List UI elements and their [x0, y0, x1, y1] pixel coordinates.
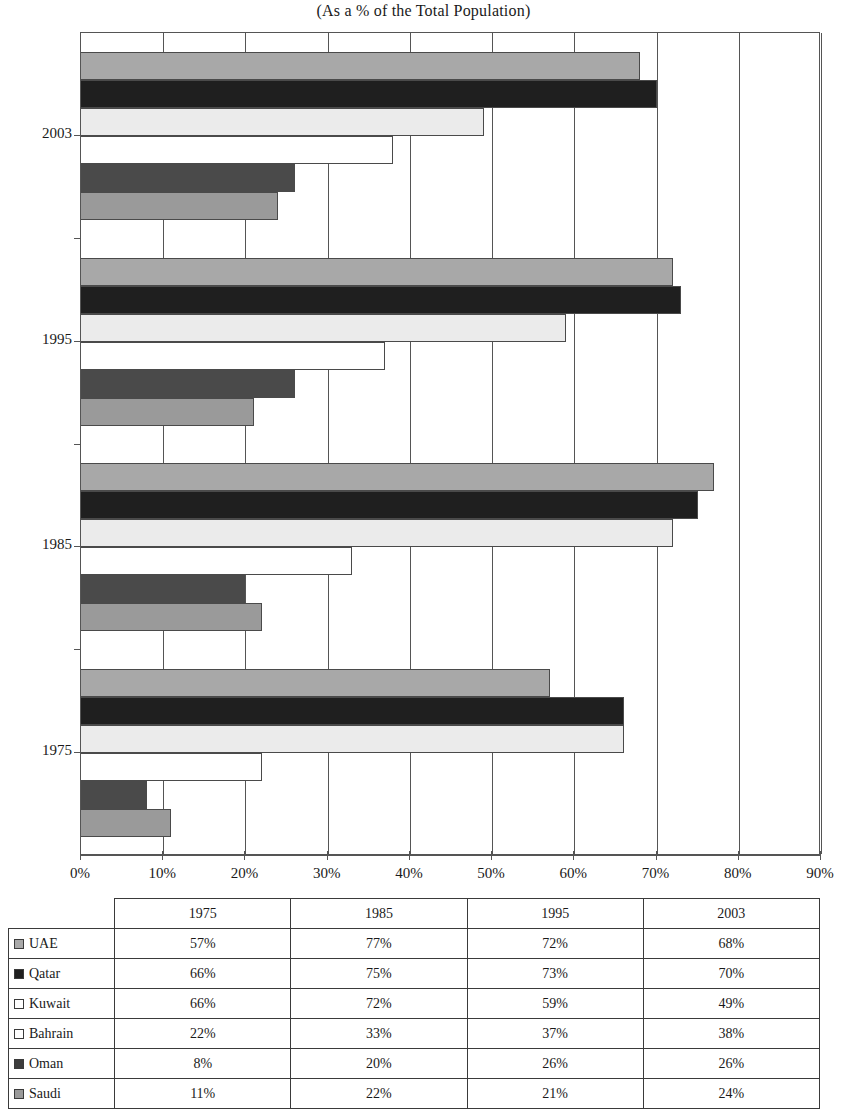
table-cell-bahrain-1975: 22% — [115, 1019, 291, 1049]
table-cell-oman-1985: 20% — [291, 1049, 467, 1079]
x-tick-label-30pct: 30% — [297, 865, 357, 882]
legend-label-bahrain: Bahrain — [29, 1026, 73, 1041]
bar-oman-1985[interactable] — [81, 575, 245, 603]
bar-row-uae-1995 — [81, 258, 819, 286]
x-tick-label-10pct: 10% — [132, 865, 192, 882]
x-tick-0pct — [80, 851, 81, 860]
table-header: 1975198519952003 — [9, 899, 820, 929]
table-row: Saudi11%22%21%24% — [9, 1079, 820, 1109]
table-col-header-1995: 1995 — [467, 899, 643, 929]
bar-qatar-1995[interactable] — [81, 286, 681, 314]
bar-row-bahrain-2003 — [81, 136, 819, 164]
legend-label-qatar: Qatar — [29, 966, 60, 981]
table-cell-saudi-1985: 22% — [291, 1079, 467, 1109]
bar-row-saudi-1975 — [81, 809, 819, 837]
table-cell-kuwait-1995: 59% — [467, 989, 643, 1019]
bar-bahrain-1985[interactable] — [81, 547, 352, 575]
bar-row-bahrain-1995 — [81, 342, 819, 370]
bar-qatar-1975[interactable] — [81, 697, 624, 725]
bar-oman-1975[interactable] — [81, 781, 147, 809]
legend-swatch-icon-bahrain — [14, 1029, 24, 1039]
bar-row-qatar-1985 — [81, 491, 819, 519]
bar-uae-2003[interactable] — [81, 52, 640, 80]
chart-plot-area — [80, 32, 820, 855]
bar-row-kuwait-1995 — [81, 314, 819, 342]
x-tick-40pct — [409, 851, 410, 860]
table-body: UAE57%77%72%68%Qatar66%75%73%70%Kuwait66… — [9, 929, 820, 1109]
x-axis: 0%10%20%30%40%50%60%70%80%90% — [80, 855, 820, 856]
bar-row-uae-1975 — [81, 669, 819, 697]
x-tick-label-50pct: 50% — [461, 865, 521, 882]
x-tick-20pct — [244, 851, 245, 860]
y-axis-tick-separator-0 — [74, 238, 81, 239]
y-axis-label-1985: 1985 — [0, 536, 72, 553]
bar-row-bahrain-1985 — [81, 547, 819, 575]
legend-cell-uae: UAE — [9, 929, 115, 959]
legend-label-kuwait: Kuwait — [29, 996, 70, 1011]
bar-saudi-1995[interactable] — [81, 398, 254, 426]
table-cell-oman-1975: 8% — [115, 1049, 291, 1079]
legend-label-oman: Oman — [29, 1056, 63, 1071]
bar-bahrain-2003[interactable] — [81, 136, 393, 164]
table-cell-oman-2003: 26% — [643, 1049, 819, 1079]
bar-uae-1995[interactable] — [81, 258, 673, 286]
x-tick-label-70pct: 70% — [626, 865, 686, 882]
legend-cell-kuwait: Kuwait — [9, 989, 115, 1019]
x-tick-label-60pct: 60% — [543, 865, 603, 882]
bar-bahrain-1995[interactable] — [81, 342, 385, 370]
bar-row-uae-2003 — [81, 52, 819, 80]
legend-swatch-icon-qatar — [14, 969, 24, 979]
bar-kuwait-1975[interactable] — [81, 725, 624, 753]
x-tick-10pct — [162, 851, 163, 860]
bar-oman-1995[interactable] — [81, 370, 295, 398]
legend-swatch-icon-kuwait — [14, 999, 24, 1009]
table-cell-qatar-2003: 70% — [643, 959, 819, 989]
table-row: Qatar66%75%73%70% — [9, 959, 820, 989]
y-axis-tick-separator-1 — [74, 444, 81, 445]
year-group-2003 — [81, 52, 819, 220]
table-col-header-1975: 1975 — [115, 899, 291, 929]
bar-row-qatar-1975 — [81, 697, 819, 725]
table-cell-saudi-2003: 24% — [643, 1079, 819, 1109]
bar-kuwait-1995[interactable] — [81, 314, 566, 342]
bar-uae-1975[interactable] — [81, 669, 550, 697]
table-cell-saudi-1975: 11% — [115, 1079, 291, 1109]
y-axis-label-2003: 2003 — [0, 125, 72, 142]
table-cell-saudi-1995: 21% — [467, 1079, 643, 1109]
y-axis-tick-1985 — [74, 546, 81, 547]
table-cell-uae-1995: 72% — [467, 929, 643, 959]
table-cell-uae-1975: 57% — [115, 929, 291, 959]
y-axis-tick-2003 — [74, 135, 81, 136]
bar-kuwait-1985[interactable] — [81, 519, 673, 547]
x-tick-label-0pct: 0% — [50, 865, 110, 882]
bar-row-kuwait-1985 — [81, 519, 819, 547]
bar-saudi-2003[interactable] — [81, 192, 278, 220]
bar-uae-1985[interactable] — [81, 463, 714, 491]
bar-saudi-1975[interactable] — [81, 809, 171, 837]
y-axis-label-1975: 1975 — [0, 742, 72, 759]
data-table: 1975198519952003 UAE57%77%72%68%Qatar66%… — [8, 898, 820, 1109]
bar-kuwait-2003[interactable] — [81, 108, 484, 136]
bar-qatar-1985[interactable] — [81, 491, 698, 519]
table-row: Oman8%20%26%26% — [9, 1049, 820, 1079]
bar-row-oman-1995 — [81, 370, 819, 398]
table-cell-oman-1995: 26% — [467, 1049, 643, 1079]
data-table-container: 1975198519952003 UAE57%77%72%68%Qatar66%… — [8, 898, 820, 1109]
bar-qatar-2003[interactable] — [81, 80, 657, 108]
x-tick-label-80pct: 80% — [708, 865, 768, 882]
bar-bahrain-1975[interactable] — [81, 753, 262, 781]
bar-saudi-1985[interactable] — [81, 603, 262, 631]
table-cell-bahrain-1995: 37% — [467, 1019, 643, 1049]
table-cell-kuwait-1985: 72% — [291, 989, 467, 1019]
y-axis-label-1995: 1995 — [0, 331, 72, 348]
x-tick-60pct — [573, 851, 574, 860]
x-tick-30pct — [327, 851, 328, 860]
bar-row-saudi-1995 — [81, 398, 819, 426]
gridline-90pct — [821, 33, 822, 854]
bar-row-oman-1975 — [81, 781, 819, 809]
x-tick-70pct — [656, 851, 657, 860]
x-tick-80pct — [738, 851, 739, 860]
legend-cell-qatar: Qatar — [9, 959, 115, 989]
bar-oman-2003[interactable] — [81, 164, 295, 192]
x-tick-50pct — [491, 851, 492, 860]
